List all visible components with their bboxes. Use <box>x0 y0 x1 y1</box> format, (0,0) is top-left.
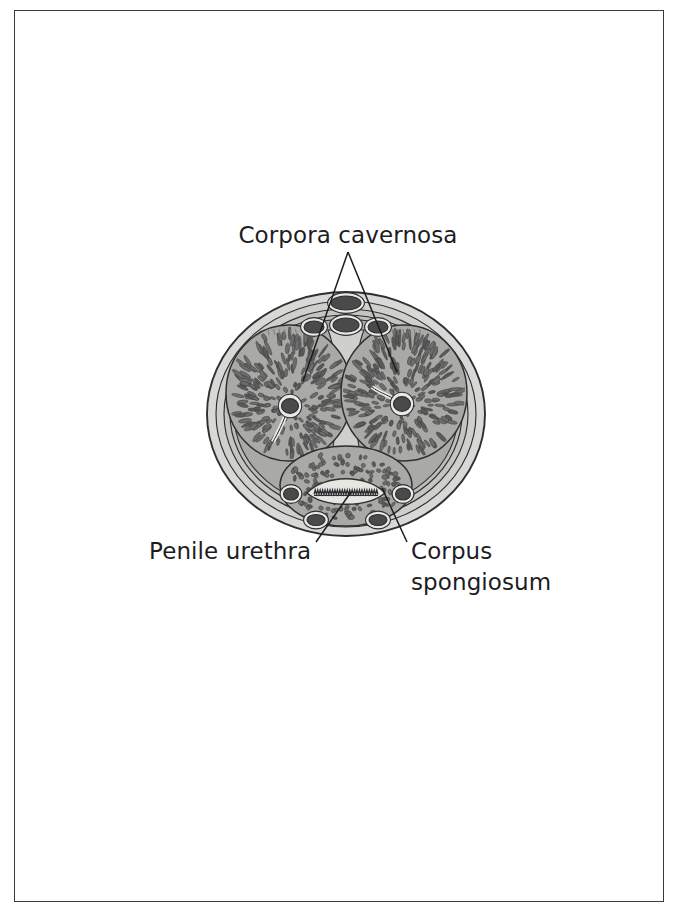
corpus-spongiosum-group <box>280 446 412 526</box>
trabecula <box>348 411 357 415</box>
corpus-cavernosum-left <box>226 325 352 461</box>
trabecula <box>359 468 364 472</box>
trabecula <box>393 447 396 454</box>
corpus-spongiosum <box>280 446 412 526</box>
figure-page: Corpora cavernosaPenile urethraCorpusspo… <box>0 0 680 914</box>
trabecula <box>396 422 401 430</box>
lateral-vessel-right <box>392 485 414 504</box>
ventral-vessel-left <box>304 511 329 529</box>
trabecula <box>315 466 319 469</box>
label-line: Penile urethra <box>149 538 311 564</box>
label-corpus-spongiosum: Corpusspongiosum <box>411 538 551 595</box>
trabecula <box>391 482 396 487</box>
lateral-vessel-left-lumen <box>284 488 299 500</box>
corpus-cavernosum-right <box>341 325 469 461</box>
ventral-vessel-left-lumen <box>307 515 325 526</box>
trabecula <box>314 475 318 478</box>
trabecula <box>265 403 270 406</box>
deep-dorsal-vein-lumen <box>333 318 359 332</box>
lateral-vessel-left <box>280 485 302 504</box>
trabecula <box>370 470 375 473</box>
trabecula <box>428 404 434 406</box>
superficial-dorsal-vein-lumen <box>331 296 361 310</box>
label-line: spongiosum <box>411 569 551 595</box>
trabecula <box>399 446 402 453</box>
trabecula <box>354 466 357 470</box>
trabecula <box>403 422 407 428</box>
label-corpora-cavernosa: Corpora cavernosa <box>238 222 457 248</box>
lateral-vessel-right-lumen <box>396 488 411 500</box>
ventral-vessel-right <box>366 511 391 529</box>
trabecula <box>291 389 294 394</box>
trabecula <box>330 474 334 478</box>
label-penile-urethra: Penile urethra <box>149 538 311 564</box>
trabecula <box>285 343 290 354</box>
trabecula <box>437 393 444 397</box>
anatomy-figure: Corpora cavernosaPenile urethraCorpusspo… <box>0 0 680 914</box>
trabecula <box>234 413 245 417</box>
trabecula <box>249 402 259 405</box>
deep-artery-left <box>282 399 299 414</box>
trabecula <box>326 507 330 511</box>
label-line: Corpora cavernosa <box>238 222 457 248</box>
trabecula <box>346 408 356 411</box>
trabecula <box>374 406 381 408</box>
trabecula <box>293 475 296 481</box>
ventral-vessel-right-lumen <box>369 515 387 526</box>
trabecula <box>382 502 385 508</box>
trabecula <box>358 403 369 406</box>
trabecula <box>424 399 432 403</box>
deep-dorsal-vein <box>330 315 363 336</box>
trabecula <box>396 362 399 369</box>
deep-artery-right <box>394 397 411 412</box>
trabecula <box>292 344 295 354</box>
trabecula <box>311 410 317 414</box>
trabecula <box>406 329 409 339</box>
trabecula <box>273 406 278 410</box>
label-line: Corpus <box>411 538 492 564</box>
trabecula <box>332 456 336 460</box>
